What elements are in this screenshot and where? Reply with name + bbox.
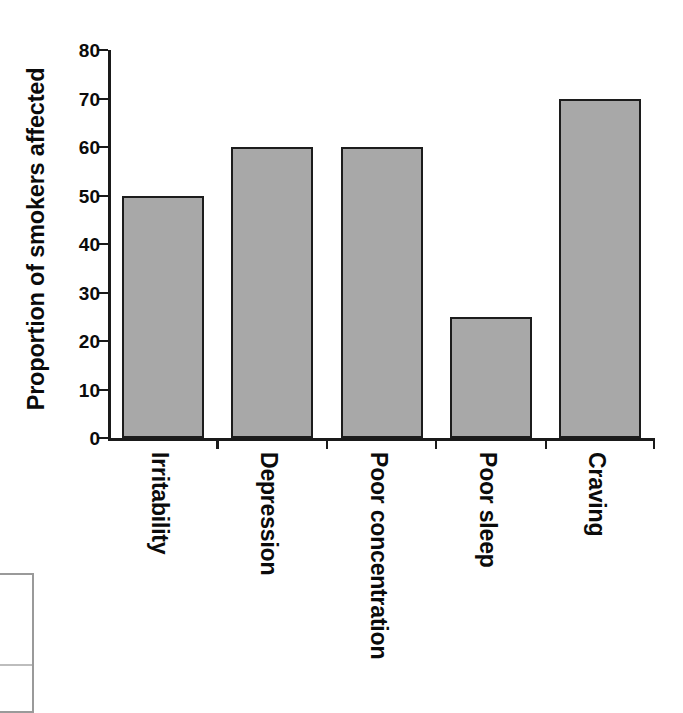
x-axis-tick-mark [653, 438, 655, 449]
x-axis-label-poor-sleep: Poor sleep [473, 452, 503, 568]
bar-poor-concentration [341, 147, 423, 438]
y-axis-tick-label: 10 [79, 380, 100, 399]
y-axis-tick-label: 80 [79, 41, 100, 60]
y-axis-tick-label: 0 [89, 429, 100, 448]
bar-poor-sleep [450, 317, 532, 438]
bar-irritability [122, 196, 204, 439]
y-axis-tick-label: 40 [79, 235, 100, 254]
x-axis-label-craving: Craving [582, 452, 612, 536]
x-axis-label-irritability: Irritability [145, 452, 175, 554]
y-axis-line [108, 50, 111, 439]
x-axis-tick-mark [326, 438, 328, 449]
x-axis-label-depression: Depression [254, 452, 284, 575]
x-axis-tick-mark [216, 438, 218, 449]
table-fragment-divider [0, 664, 32, 666]
x-axis-label-poor-concentration: Poor concentration [364, 452, 394, 659]
table-fragment-artifact [0, 573, 34, 713]
x-axis-tick-mark [545, 438, 547, 449]
bar-depression [231, 147, 313, 438]
y-axis-title: Proportion of smokers affected [19, 29, 53, 449]
y-axis-tick-label: 50 [79, 186, 100, 205]
x-axis-tick-mark [435, 438, 437, 449]
y-axis-tick-label: 30 [79, 283, 100, 302]
y-axis-tick-label: 60 [79, 138, 100, 157]
plot-area: 01020304050607080 [108, 50, 655, 438]
y-axis-tick-label: 20 [79, 332, 100, 351]
y-axis-tick-label: 70 [79, 89, 100, 108]
x-axis-line [108, 438, 655, 441]
bar-craving [559, 99, 641, 439]
